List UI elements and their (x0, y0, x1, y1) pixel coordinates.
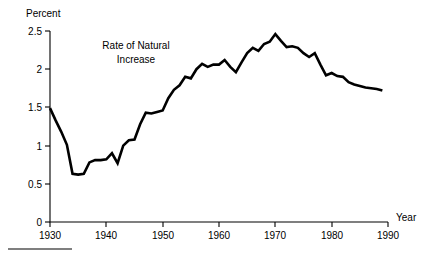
y-tick-label-1: 1 (36, 141, 42, 152)
data-line-rate-of-natural-increase (50, 34, 382, 175)
x-tick-label-1930: 1930 (39, 230, 62, 241)
y-tick-label-0: 0 (36, 217, 42, 228)
x-tick-label-1970: 1970 (264, 230, 287, 241)
x-axis-title: Year (396, 212, 417, 223)
y-tick-label-2: 2 (36, 64, 42, 75)
y-tick-label-0-5: 0.5 (28, 179, 42, 190)
annotation-line-2: Increase (117, 54, 156, 65)
chart-figure: Percent 2.5 2 1.5 1 0.5 0 1930 1940 1950… (0, 0, 430, 258)
x-tick-label-1980: 1980 (321, 230, 344, 241)
annotation-line-1: Rate of Natural (102, 40, 169, 51)
x-tick-label-1950: 1950 (152, 230, 175, 241)
y-tick-label-1-5: 1.5 (28, 102, 42, 113)
y-axis-title: Percent (26, 8, 61, 19)
y-tick-label-2-5: 2.5 (28, 26, 42, 37)
x-tick-label-1990: 1990 (377, 230, 400, 241)
axis-lines (50, 31, 388, 222)
x-tick-label-1940: 1940 (95, 230, 118, 241)
rate-of-natural-increase-line-chart: Percent 2.5 2 1.5 1 0.5 0 1930 1940 1950… (0, 0, 430, 258)
x-tick-label-1960: 1960 (208, 230, 231, 241)
